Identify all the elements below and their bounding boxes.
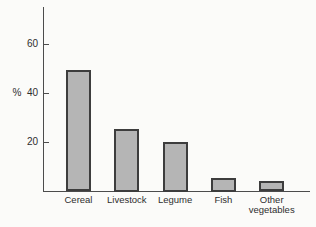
bar-chart-figure: % 204060 CerealLivestockLegumeFishOther …	[0, 0, 316, 227]
bar-livestock	[114, 129, 139, 191]
y-tick-40	[43, 93, 49, 94]
y-tick-label-40: 40	[16, 87, 38, 99]
bar-cereal	[66, 70, 91, 191]
x-label-other-vegetables: Other vegetables	[237, 195, 307, 216]
y-axis-line	[43, 7, 44, 192]
y-tick-label-60: 60	[16, 38, 38, 50]
bar-other-vegetables	[259, 181, 284, 192]
y-tick-60	[43, 44, 49, 45]
y-tick-label-20: 20	[16, 136, 38, 148]
bar-legume	[163, 142, 188, 192]
y-tick-20	[43, 142, 49, 143]
bar-fish	[211, 178, 236, 191]
